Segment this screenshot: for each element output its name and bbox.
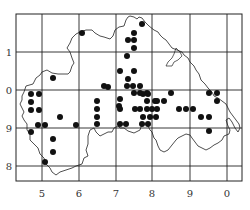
occurrence-dot <box>154 98 160 104</box>
occurrence-dot <box>105 84 111 90</box>
occurrence-dot <box>168 90 174 96</box>
occurrence-dot <box>124 53 130 59</box>
occurrence-dot <box>28 107 34 113</box>
occurrence-dot <box>198 114 204 120</box>
occurrence-dot <box>35 122 41 128</box>
occurrence-dot <box>144 98 150 104</box>
x-tick-label: 5 <box>39 188 45 199</box>
occurrence-dot <box>190 106 196 112</box>
occurrence-dot <box>36 107 42 113</box>
occurrence-dot <box>131 90 137 96</box>
occurrence-dot <box>28 99 34 105</box>
occurrence-dot <box>42 122 48 128</box>
occurrence-dot <box>125 37 131 43</box>
x-tick-label: 6 <box>76 188 82 199</box>
y-tick-label: 8 <box>6 161 12 172</box>
occurrence-dot <box>139 21 145 27</box>
occurrence-dot <box>153 114 159 120</box>
occurrence-dot <box>183 106 189 112</box>
x-tick-label: 8 <box>149 188 155 199</box>
occurrence-dot <box>94 106 100 112</box>
occurrence-dot <box>28 91 34 97</box>
occurrence-dot <box>131 68 137 74</box>
y-tick-label: 9 <box>6 123 12 134</box>
occurrence-dot <box>131 30 137 36</box>
occurrence-dot <box>94 114 100 120</box>
occurrence-dot <box>130 83 136 89</box>
y-tick-label: 1 <box>6 47 12 58</box>
occurrence-dot <box>50 136 56 142</box>
occurrence-dot <box>145 91 151 97</box>
occurrence-dot <box>94 121 100 127</box>
occurrence-dot <box>131 37 137 43</box>
occurrence-dot <box>154 106 160 112</box>
occurrence-dot <box>73 122 79 128</box>
occurrence-dot <box>145 121 151 127</box>
x-axis-labels: 5 6 7 8 9 0 <box>39 188 230 199</box>
x-tick-label: 0 <box>224 188 230 199</box>
occurrence-dots <box>28 21 220 165</box>
occurrence-dot <box>57 114 63 120</box>
occurrence-dot <box>140 114 146 120</box>
occurrence-dot <box>137 83 143 89</box>
occurrence-dot <box>125 76 131 82</box>
occurrence-dot <box>176 106 182 112</box>
occurrence-dot <box>123 121 129 127</box>
map-canvas: 5 6 7 8 9 0 1 0 9 8 <box>0 0 250 210</box>
occurrence-dot <box>79 30 85 36</box>
occurrence-dot <box>117 121 123 127</box>
y-axis-labels: 1 0 9 8 <box>6 47 12 172</box>
occurrence-dot <box>137 106 143 112</box>
occurrence-dot <box>206 90 212 96</box>
occurrence-dot <box>161 98 167 104</box>
x-tick-label: 9 <box>187 188 193 199</box>
occurrence-dot <box>36 91 42 97</box>
occurrence-dot <box>214 98 220 104</box>
occurrence-dot <box>206 128 212 134</box>
occurrence-dot <box>28 129 34 135</box>
occurrence-dot <box>42 159 48 165</box>
occurrence-dot <box>117 68 123 74</box>
occurrence-dot <box>206 114 212 120</box>
occurrence-dot <box>117 96 123 102</box>
occurrence-dot <box>131 45 137 51</box>
occurrence-dot <box>94 98 100 104</box>
occurrence-dot <box>139 121 145 127</box>
dot-distribution-map: 5 6 7 8 9 0 1 0 9 8 <box>0 0 250 210</box>
x-tick-label: 7 <box>113 188 119 199</box>
occurrence-dot <box>147 114 153 120</box>
occurrence-dot <box>214 90 220 96</box>
occurrence-dot <box>124 83 130 89</box>
y-tick-label: 0 <box>6 85 12 96</box>
occurrence-dot <box>117 106 123 112</box>
occurrence-dot <box>50 149 56 155</box>
occurrence-dot <box>50 75 56 81</box>
